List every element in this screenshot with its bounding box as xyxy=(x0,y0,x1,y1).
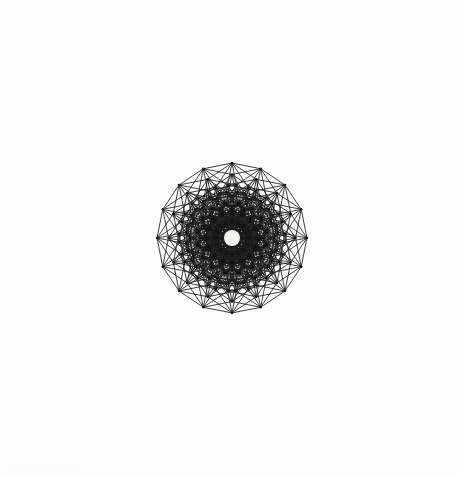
graph-vertex xyxy=(226,290,229,293)
graph-vertex xyxy=(247,243,250,246)
graph-vertex xyxy=(277,231,280,234)
graph-vertex xyxy=(202,216,205,219)
graph-vertex xyxy=(190,214,193,217)
graph-vertex xyxy=(247,255,250,258)
graph-vertex xyxy=(196,229,199,232)
graph-vertex xyxy=(271,271,274,274)
graph-vertex xyxy=(266,231,269,234)
graph-vertex xyxy=(265,196,268,199)
graph-vertex xyxy=(218,224,221,227)
graph-vertex xyxy=(245,242,248,245)
graph-vertex xyxy=(220,215,223,218)
graph-vertex xyxy=(237,237,240,240)
graph-vertex xyxy=(206,295,209,298)
graph-vertex xyxy=(236,272,239,275)
graph-vertex xyxy=(213,221,216,224)
graph-vertex xyxy=(236,251,239,254)
graph-vertex xyxy=(247,230,250,233)
graph-vertex xyxy=(236,190,239,193)
graph-vertex xyxy=(215,230,218,233)
graph-vertex xyxy=(237,253,240,256)
graph-vertex xyxy=(276,192,279,195)
graph-vertex xyxy=(259,216,262,219)
graph-vertex xyxy=(209,247,212,250)
graph-vertex xyxy=(231,194,234,197)
graph-vertex xyxy=(225,272,228,275)
graph-vertex xyxy=(183,212,186,215)
graph-vertex xyxy=(196,277,199,280)
graph-vertex xyxy=(249,218,252,221)
graph-vertex xyxy=(249,207,252,210)
graph-vertex xyxy=(243,249,246,252)
graph-vertex xyxy=(190,271,193,274)
graph-vertex xyxy=(225,283,228,286)
graph-vertex xyxy=(255,284,258,287)
graph-vertex xyxy=(208,245,211,248)
graph-vertex xyxy=(190,260,193,263)
graph-vertex xyxy=(235,184,238,187)
graph-vertex xyxy=(212,255,215,258)
graph-vertex xyxy=(209,215,212,218)
graph-vertex xyxy=(261,255,264,258)
graph-vertex xyxy=(178,241,181,244)
graph-vertex xyxy=(180,253,183,256)
graph-vertex xyxy=(231,173,234,176)
graph-vertex xyxy=(226,184,229,187)
graph-vertex xyxy=(231,210,234,213)
graph-vertex xyxy=(231,268,234,271)
graph-vertex xyxy=(190,202,193,205)
graph-vertex xyxy=(213,253,216,256)
graph-vertex xyxy=(225,202,228,205)
graph-vertex xyxy=(225,190,228,193)
hypercube-graph-svg xyxy=(0,0,462,477)
graph-vertex xyxy=(268,265,271,268)
graph-vertex xyxy=(289,212,292,215)
graph-vertex xyxy=(215,186,218,189)
graph-vertex xyxy=(246,237,249,240)
graph-vertex xyxy=(248,237,251,240)
graph-vertex xyxy=(196,196,199,199)
graph-vertex xyxy=(219,208,222,211)
graph-vertex xyxy=(253,247,256,250)
graph-vertex xyxy=(231,300,234,303)
graph-vertex xyxy=(186,192,189,195)
graph-vertex xyxy=(217,242,220,245)
graph-vertex xyxy=(247,219,250,222)
graph-vertex xyxy=(249,221,252,224)
graph-vertex xyxy=(217,231,220,234)
graph-vertex xyxy=(259,200,262,203)
graph-vertex xyxy=(255,235,258,238)
graph-vertex xyxy=(225,239,228,242)
graph-vertex xyxy=(232,261,235,264)
graph-vertex xyxy=(277,242,280,245)
graph-vertex xyxy=(221,212,224,215)
graph-vertex xyxy=(218,192,221,195)
graph-vertex xyxy=(262,237,265,240)
graph-vertex xyxy=(284,184,287,187)
graph-vertex xyxy=(251,265,254,268)
graph-vertex xyxy=(231,219,234,222)
graph-vertex xyxy=(239,271,242,274)
graph-vertex xyxy=(183,261,186,264)
graph-vertex xyxy=(241,226,244,229)
graph-vertex xyxy=(236,223,239,226)
graph-vertex xyxy=(178,290,181,293)
graph-vertex xyxy=(273,237,276,240)
graph-vertex xyxy=(241,247,244,250)
graph-vertex xyxy=(270,253,273,256)
graph-vertex xyxy=(243,208,246,211)
graph-vertex xyxy=(215,276,218,279)
graph-vertex xyxy=(213,237,216,240)
graph-vertex xyxy=(206,227,209,230)
graph-vertex xyxy=(270,221,273,224)
graph-vertex xyxy=(254,277,256,280)
graph-vertex xyxy=(228,231,231,234)
graph-vertex xyxy=(243,224,246,227)
graph-vertex xyxy=(218,249,221,252)
graph-vertex xyxy=(202,168,205,171)
graph-vertex xyxy=(235,290,238,293)
graph-vertex xyxy=(206,178,209,181)
graph-vertex xyxy=(284,290,287,293)
graph-vertex xyxy=(210,265,213,268)
graph-vertex xyxy=(196,245,199,248)
